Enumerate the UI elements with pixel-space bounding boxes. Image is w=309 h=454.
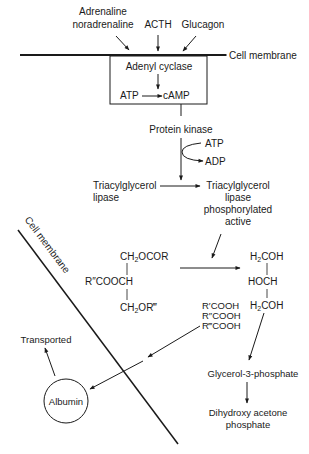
atp-label: ATP (120, 90, 139, 101)
protein-kinase-label: Protein kinase (149, 124, 213, 135)
atp-adp-curve (182, 143, 203, 161)
cell-membrane-top-label: Cell membrane (229, 50, 297, 61)
adenyl-cyclase-label: Adenyl cyclase (126, 61, 193, 72)
svg-text:CH2OCOR: CH2OCOR (120, 251, 168, 263)
triglyceride-structure: CH2OCOR R″COOCH CH2OR‴ (85, 251, 168, 314)
pk-atp-label: ATP (205, 138, 224, 149)
albumin-label: Albumin (49, 396, 83, 407)
arrow-lipase-to-reaction (212, 234, 221, 258)
svg-text:H2COH: H2COH (250, 300, 283, 312)
lipase-inactive-line1: Triacylglycerol (93, 180, 157, 191)
arrow-fatty-acids-out-2 (90, 361, 143, 389)
arrow-adrenaline (116, 36, 129, 50)
lipase-active-line3: phosphorylated (204, 204, 272, 215)
arrow-glucagon (183, 36, 196, 51)
glycerol-structure: H2COH HOCH H2COH (248, 251, 283, 312)
camp-label: cAMP (163, 90, 190, 101)
fatty-acid-3: R‴COOH (202, 320, 241, 331)
hormone-acth: ACTH (144, 19, 171, 30)
lipase-inactive-line2: lipase (93, 192, 120, 203)
svg-text:CH2OR‴: CH2OR‴ (120, 302, 157, 314)
lipolysis-diagram: Adrenaline noradrenaline ACTH Glucagon C… (0, 0, 309, 454)
diagram-svg: Adrenaline noradrenaline ACTH Glucagon C… (0, 0, 309, 454)
arrow-glycerol-to-g3p (249, 313, 264, 360)
dhap-line1: Dihydroxy acetone (209, 407, 288, 418)
svg-text:HOCH: HOCH (248, 276, 277, 287)
hormone-glucagon: Glucagon (182, 19, 225, 30)
arrow-transported (45, 348, 55, 376)
cell-membrane-diagonal-label: Cell membrane (23, 214, 73, 275)
g3p-label: Glycerol-3-phosphate (208, 368, 299, 379)
transported-label: Transported (21, 334, 72, 345)
lipase-active-line4: active (225, 216, 252, 227)
hormone-adrenaline: Adrenaline (79, 6, 127, 17)
svg-text:R″COOCH: R″COOCH (85, 276, 133, 287)
pk-adp-label: ADP (205, 156, 226, 167)
dhap-line2: phosphate (226, 419, 270, 430)
lipase-active-line2: lipase (225, 192, 252, 203)
lipase-active-line1: Triacylglycerol (206, 180, 270, 191)
arrow-fatty-acids-out-1 (148, 326, 200, 357)
svg-text:H2COH: H2COH (250, 251, 283, 263)
hormone-noradrenaline: noradrenaline (72, 19, 134, 30)
